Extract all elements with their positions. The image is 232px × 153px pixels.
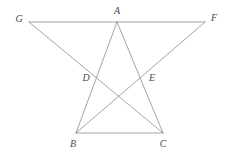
vertex-label-f: F <box>211 13 217 23</box>
figure-drawing <box>0 0 232 153</box>
vertex-label-g: G <box>15 14 22 24</box>
segment-f-b <box>76 22 205 133</box>
segment-a-c <box>117 22 163 133</box>
vertex-label-a: A <box>114 6 120 16</box>
vertex-label-c: C <box>160 139 167 149</box>
geometric-figure-canvas: GAFDEBC <box>0 0 232 153</box>
segment-g-c <box>29 22 163 133</box>
vertex-label-e: E <box>149 73 155 83</box>
vertex-label-b: B <box>70 139 76 149</box>
segments-group <box>29 22 205 133</box>
vertex-label-d: D <box>82 73 89 83</box>
